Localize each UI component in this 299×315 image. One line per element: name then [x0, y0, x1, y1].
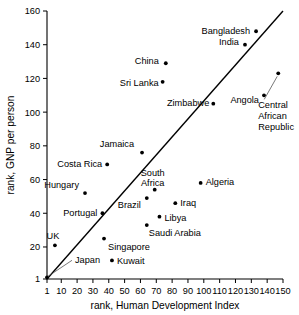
point-label-south-africa: South: [141, 168, 165, 178]
y-tick-label: 120: [25, 74, 40, 84]
point-label-zimbabwe: Zimbabwe: [167, 98, 209, 108]
point-label-brazil: Brazil: [118, 200, 141, 210]
japan-leader-line: [48, 260, 72, 276]
x-tick-label: 120: [228, 286, 243, 296]
axes-group: 1204060801001201401601102030405060708090…: [25, 6, 291, 295]
point-label-costa-rica: Costa Rica: [57, 159, 103, 169]
data-point-india[interactable]: [243, 43, 247, 47]
y-tick-label: 140: [25, 40, 40, 50]
x-tick-label: 1: [44, 286, 49, 296]
y-tick-label: 40: [30, 209, 40, 219]
x-tick-label: 130: [244, 286, 259, 296]
y-tick-label: 20: [30, 242, 40, 252]
data-point-bangladesh[interactable]: [254, 29, 258, 33]
point-label-libya: Libya: [164, 213, 187, 223]
point-label-angola: Angola: [230, 95, 259, 105]
data-point-portugal[interactable]: [101, 211, 105, 215]
y-tick-label: 80: [30, 141, 40, 151]
point-label-jamaica: Jamaica: [100, 139, 135, 149]
point-label-portugal: Portugal: [63, 208, 97, 218]
y-tick-label: 100: [25, 108, 40, 118]
data-point-iraq[interactable]: [173, 201, 177, 205]
x-tick-label: 40: [104, 286, 114, 296]
x-tick-label: 30: [88, 286, 98, 296]
data-point-libya[interactable]: [158, 215, 162, 219]
x-tick-label: 70: [151, 286, 161, 296]
y-tick-label: 60: [30, 175, 40, 185]
x-tick-label: 110: [212, 286, 227, 296]
y-tick-label: 160: [25, 6, 40, 16]
data-point-sri-lanka[interactable]: [161, 80, 165, 84]
x-tick-label: 50: [119, 286, 129, 296]
point-label-sri-lanka: Sri Lanka: [120, 78, 160, 88]
data-point-china[interactable]: [164, 61, 168, 65]
x-tick-label: 60: [135, 286, 145, 296]
data-point-algeria[interactable]: [199, 181, 203, 185]
point-label-south-africa: Africa: [141, 178, 165, 188]
point-label-japan: Japan: [75, 255, 100, 265]
x-tick-label: 90: [183, 286, 193, 296]
point-label-china: China: [135, 56, 160, 66]
central-african-republic-leader-line: [264, 76, 277, 99]
scatter-plot-svg: 1204060801001201401601102030405060708090…: [0, 0, 299, 315]
point-label-central-african-republic: Republic: [258, 122, 294, 132]
data-point-saudi-arabia[interactable]: [145, 223, 149, 227]
point-label-kuwait: Kuwait: [117, 256, 145, 266]
x-tick-label: 100: [196, 286, 211, 296]
point-label-uk: UK: [47, 231, 61, 241]
equality-line-group: [47, 11, 283, 279]
point-label-singapore: Singapore: [108, 242, 150, 252]
x-axis-title: rank, Human Development Index: [91, 300, 240, 311]
point-label-central-african-republic: African: [258, 111, 287, 121]
data-point-jamaica[interactable]: [140, 151, 144, 155]
x-tick-label: 80: [167, 286, 177, 296]
x-tick-label: 10: [56, 286, 66, 296]
equality-reference-line: [47, 11, 283, 279]
point-label-iraq: Iraq: [180, 198, 196, 208]
point-label-bangladesh: Bangladesh: [202, 26, 251, 36]
x-tick-label: 140: [259, 286, 274, 296]
data-point-zimbabwe[interactable]: [211, 102, 215, 106]
point-label-central-african-republic: Central: [258, 100, 288, 110]
data-point-hungary[interactable]: [83, 191, 87, 195]
data-point-kuwait[interactable]: [110, 259, 114, 263]
data-point-uk[interactable]: [53, 243, 57, 247]
data-point-angola[interactable]: [262, 93, 266, 97]
x-tick-label: 150: [275, 286, 290, 296]
y-tick-label: 1: [35, 274, 40, 284]
data-point-south-africa[interactable]: [153, 188, 157, 192]
data-point-singapore[interactable]: [102, 237, 106, 241]
y-axis-title: rank, GNP per person: [5, 96, 16, 195]
point-label-hungary: Hungary: [44, 180, 79, 190]
point-label-saudi-arabia: Saudi Arabia: [149, 228, 202, 238]
data-point-costa-rica[interactable]: [105, 162, 109, 166]
point-label-algeria: Algeria: [206, 177, 235, 187]
x-tick-label: 20: [72, 286, 82, 296]
data-point-brazil[interactable]: [145, 196, 149, 200]
data-point-central-african-republic[interactable]: [276, 71, 280, 75]
scatter-chart-figure: 1204060801001201401601102030405060708090…: [0, 0, 299, 315]
point-label-india: India: [219, 37, 240, 47]
